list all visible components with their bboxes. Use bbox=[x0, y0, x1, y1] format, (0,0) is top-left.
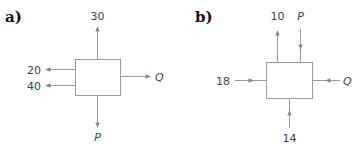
flow-arrow-30-out: 30 bbox=[91, 10, 105, 59]
arrowhead-right-icon bbox=[249, 78, 255, 82]
flow-label-30: 30 bbox=[91, 10, 105, 23]
flow-label-q: Q bbox=[343, 75, 352, 88]
panel-b: b) 10 P 18 Q 14 bbox=[195, 8, 352, 145]
flow-label-18: 18 bbox=[216, 75, 230, 88]
flow-arrow-18-in: 18 bbox=[216, 75, 266, 88]
arrowhead-up-icon bbox=[275, 30, 279, 36]
panel-a: a) 30 20 40 Q P bbox=[5, 8, 164, 144]
flow-arrow-14-in: 14 bbox=[283, 99, 297, 145]
arrowhead-down-icon bbox=[298, 45, 302, 51]
flow-label-10: 10 bbox=[271, 10, 285, 23]
flow-arrow-q-in: Q bbox=[313, 75, 352, 88]
arrowhead-left-icon bbox=[325, 78, 331, 82]
panel-a-label: a) bbox=[5, 8, 22, 26]
flow-arrow-p-out: P bbox=[94, 95, 101, 144]
arrowhead-up-icon bbox=[95, 26, 99, 32]
flow-label-p: P bbox=[94, 131, 101, 144]
arrowhead-left-icon bbox=[45, 67, 51, 71]
node-box-b bbox=[267, 63, 313, 99]
diagram-canvas: a) 30 20 40 Q P bbox=[0, 0, 358, 146]
flow-arrow-10-out: 10 bbox=[271, 10, 285, 62]
flow-label-q: Q bbox=[155, 71, 164, 84]
flow-arrow-20-out: 20 bbox=[27, 64, 75, 77]
flow-arrow-40-out: 40 bbox=[27, 80, 75, 93]
flow-arrow-q-out: Q bbox=[120, 71, 164, 84]
flow-label-20: 20 bbox=[27, 64, 41, 77]
flow-label-14: 14 bbox=[283, 132, 297, 145]
flow-arrow-p-in: P bbox=[297, 10, 304, 62]
arrowhead-up-icon bbox=[287, 110, 291, 116]
flow-label-40: 40 bbox=[27, 80, 41, 93]
arrowhead-down-icon bbox=[95, 123, 99, 129]
arrowhead-left-icon bbox=[45, 83, 51, 87]
arrowhead-right-icon bbox=[146, 74, 152, 78]
node-box-a bbox=[76, 60, 121, 96]
panel-b-label: b) bbox=[195, 8, 213, 26]
flow-label-p: P bbox=[297, 10, 304, 23]
